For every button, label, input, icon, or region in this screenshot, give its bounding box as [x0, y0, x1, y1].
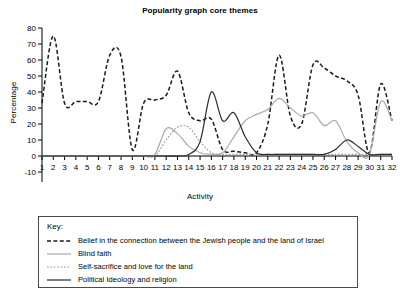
legend-item: Blind faith — [46, 247, 350, 260]
x-tick-label: 23 — [286, 163, 295, 172]
y-tick-label: 30 — [27, 104, 36, 113]
chart-page: Popularity graph core themes -1001020304… — [0, 0, 400, 299]
x-tick-label: 20 — [252, 163, 261, 172]
legend-swatch-dashed-icon — [46, 236, 72, 245]
x-tick-label: 13 — [173, 163, 182, 172]
y-tick-label: 70 — [27, 40, 36, 49]
x-tick-label: 27 — [331, 163, 340, 172]
y-tick-label: 20 — [27, 120, 36, 129]
y-tick-label: -10 — [24, 168, 36, 177]
x-tick-label: 6 — [96, 163, 101, 172]
x-tick-label: 9 — [130, 163, 135, 172]
x-tick-label: 29 — [354, 163, 363, 172]
x-tick-label: 12 — [162, 163, 171, 172]
x-tick-label: 11 — [151, 163, 160, 172]
plot-area: -100102030405060708012345678910111213141… — [0, 20, 400, 195]
series-line-0 — [42, 36, 392, 155]
legend-label: Blind faith — [78, 249, 112, 258]
x-tick-label: 3 — [62, 163, 67, 172]
x-tick-label: 30 — [365, 163, 374, 172]
y-tick-label: 50 — [27, 72, 36, 81]
y-tick-label: 10 — [27, 136, 36, 145]
x-tick-label: 24 — [297, 163, 306, 172]
page-title: Popularity graph core themes — [0, 6, 400, 15]
legend-title: Key: — [47, 222, 350, 231]
y-tick-label: 40 — [27, 88, 36, 97]
legend-label: Belief in the connection between the Jew… — [78, 236, 324, 245]
legend-items: Belief in the connection between the Jew… — [46, 234, 350, 286]
x-tick-label: 4 — [74, 163, 79, 172]
legend-item: Political Ideology and religion — [46, 273, 350, 286]
y-tick-label: 80 — [27, 24, 36, 33]
x-tick-label: 26 — [320, 163, 329, 172]
legend-label: Political Ideology and religion — [78, 275, 177, 284]
x-tick-label: 1 — [40, 163, 45, 172]
y-tick-label: 60 — [27, 56, 36, 65]
x-tick-label: 25 — [309, 163, 318, 172]
y-tick-label: 0 — [32, 152, 37, 161]
series-line-2 — [42, 125, 392, 157]
x-tick-label: 7 — [108, 163, 113, 172]
series-line-3 — [42, 92, 392, 156]
x-tick-label: 28 — [342, 163, 351, 172]
legend-item: Belief in the connection between the Jew… — [46, 234, 350, 247]
y-axis-label: Percentage — [9, 68, 18, 138]
x-tick-label: 18 — [229, 163, 238, 172]
x-tick-label: 15 — [196, 163, 205, 172]
legend-swatch-solid-icon — [46, 275, 72, 284]
legend-swatch-dotted-icon — [46, 262, 72, 271]
chart-svg: -100102030405060708012345678910111213141… — [0, 20, 400, 195]
x-tick-label: 14 — [184, 163, 193, 172]
x-tick-label: 17 — [218, 163, 227, 172]
x-tick-label: 31 — [376, 163, 385, 172]
x-tick-label: 21 — [263, 163, 272, 172]
legend-swatch-solid-icon — [46, 249, 72, 258]
x-axis-label: Activity — [0, 192, 400, 201]
x-tick-label: 19 — [241, 163, 250, 172]
x-tick-label: 2 — [51, 163, 56, 172]
legend: Key: Belief in the connection between th… — [38, 216, 358, 288]
legend-label: Self-sacrifice and love for the land — [78, 262, 193, 271]
x-tick-label: 8 — [119, 163, 124, 172]
x-tick-label: 5 — [85, 163, 90, 172]
legend-item: Self-sacrifice and love for the land — [46, 260, 350, 273]
x-tick-label: 16 — [207, 163, 216, 172]
x-tick-label: 32 — [388, 163, 397, 172]
x-tick-label: 22 — [275, 163, 284, 172]
series-line-1 — [42, 98, 392, 158]
x-tick-label: 10 — [139, 163, 148, 172]
